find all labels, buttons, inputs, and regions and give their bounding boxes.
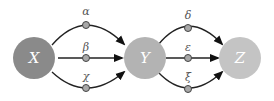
node-x-label: X [28,49,41,67]
midpoint-xi [185,86,192,93]
midpoint-epsilon [185,55,192,62]
edges-x-to-y: α β χ [52,5,124,92]
label-beta: β [82,41,89,54]
diagram: α β χ δ ε ξ X Y Z [0,0,274,101]
midpoint-delta [185,25,192,32]
midpoint-alpha [83,22,90,29]
label-delta: δ [185,9,192,22]
node-y: Y [124,37,166,79]
node-z-label: Z [234,49,246,67]
label-chi: χ [82,70,91,83]
label-epsilon: ε [185,41,191,54]
node-z: Z [219,37,261,79]
label-alpha: α [82,5,90,18]
midpoint-beta [83,55,90,62]
node-x: X [13,37,55,79]
midpoint-chi [83,85,90,92]
edges-y-to-z: δ ε ξ [158,9,222,93]
label-xi: ξ [185,71,192,84]
